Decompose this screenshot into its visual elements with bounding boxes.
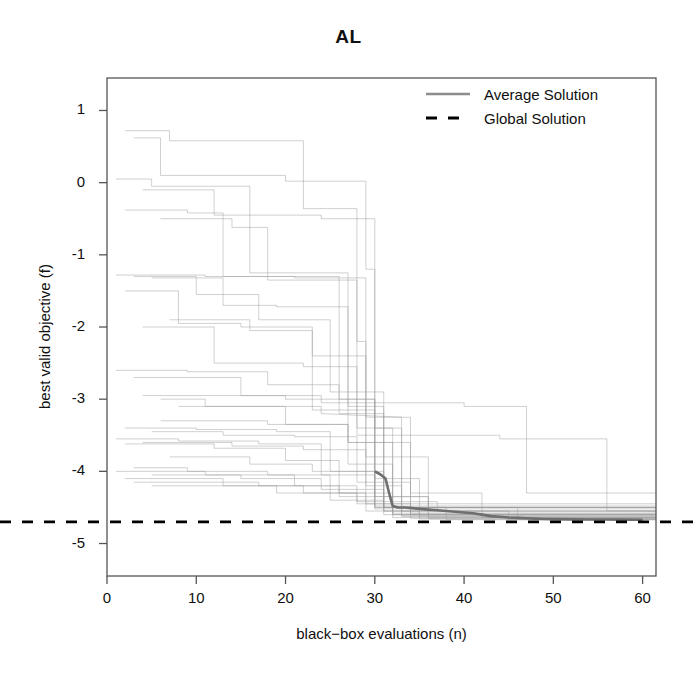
legend-item-global: Global Solution — [424, 106, 598, 130]
x-tick-label: 50 — [523, 589, 583, 606]
run-trace — [152, 278, 656, 515]
y-axis-label: best valid objective (f) — [36, 207, 53, 467]
x-tick-label: 60 — [613, 589, 673, 606]
run-trace — [169, 457, 656, 519]
y-tick-label: -5 — [45, 534, 85, 551]
y-tick-label: 1 — [45, 100, 85, 117]
run-trace — [169, 320, 656, 518]
chart-legend: Average Solution Global Solution — [424, 82, 598, 130]
x-tick-label: 0 — [77, 589, 137, 606]
legend-key-solid-line-icon — [424, 85, 472, 103]
run-traces-group — [116, 131, 656, 520]
x-tick-label: 20 — [256, 589, 316, 606]
run-trace — [134, 138, 656, 508]
run-trace — [143, 442, 656, 516]
legend-key-dashed-line-icon — [424, 109, 472, 127]
run-trace — [125, 291, 656, 506]
run-trace — [143, 190, 656, 515]
run-trace — [161, 399, 656, 513]
chart-figure: AL 10-1-2-3-4-5 0102030405060 best valid… — [0, 0, 697, 676]
legend-label-average: Average Solution — [484, 86, 598, 103]
axes-group — [99, 78, 656, 584]
run-trace — [116, 179, 656, 511]
x-axis-label: black−box evaluations (n) — [107, 625, 656, 642]
legend-label-global: Global Solution — [484, 110, 586, 127]
y-tick-label: 0 — [45, 173, 85, 190]
x-tick-label: 30 — [345, 589, 405, 606]
run-trace — [143, 327, 656, 511]
run-trace — [134, 378, 656, 517]
legend-item-average: Average Solution — [424, 82, 598, 106]
run-trace — [116, 439, 656, 508]
run-trace — [134, 276, 656, 507]
x-tick-label: 40 — [434, 589, 494, 606]
run-trace — [125, 444, 656, 518]
x-tick-label: 10 — [166, 589, 226, 606]
run-trace — [152, 432, 656, 515]
